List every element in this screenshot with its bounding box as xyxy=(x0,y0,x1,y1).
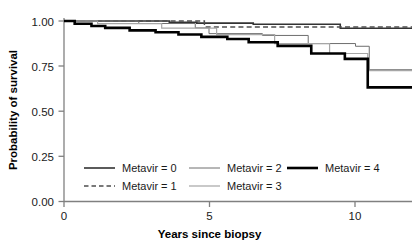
series-group xyxy=(64,21,412,87)
x-tick-label-0: 0 xyxy=(61,210,67,222)
chart-canvas: 1.00 0.75 0.50 0.25 0.00 0 5 10 Years si… xyxy=(0,0,418,249)
legend-label-4: Metavir = 3 xyxy=(227,180,282,192)
legend-label-1: Metavir = 2 xyxy=(227,162,282,174)
legend-label-0: Metavir = 0 xyxy=(122,162,177,174)
y-tick-label-050: 0.50 xyxy=(32,106,54,118)
y-tick-label-100: 1.00 xyxy=(32,16,54,28)
x-axis-title: Years since biopsy xyxy=(158,228,262,240)
y-tick-label-000: 0.00 xyxy=(32,196,54,208)
y-axis-ticks xyxy=(59,21,65,202)
y-tick-label-075: 0.75 xyxy=(32,61,54,73)
x-tick-label-10: 10 xyxy=(349,210,362,222)
legend-label-3: Metavir = 1 xyxy=(122,180,177,192)
x-tick-label-5: 5 xyxy=(206,210,212,222)
y-axis-title: Probability of survival xyxy=(7,50,19,170)
y-tick-label-025: 0.25 xyxy=(32,151,54,163)
chart-legend: Metavir = 0Metavir = 2Metavir = 4Metavir… xyxy=(84,162,380,192)
series-line-metavir-4 xyxy=(64,21,412,87)
survival-chart-figure: 1.00 0.75 0.50 0.25 0.00 0 5 10 Years si… xyxy=(0,0,418,249)
x-axis-ticks xyxy=(64,202,355,208)
legend-label-2: Metavir = 4 xyxy=(325,162,380,174)
